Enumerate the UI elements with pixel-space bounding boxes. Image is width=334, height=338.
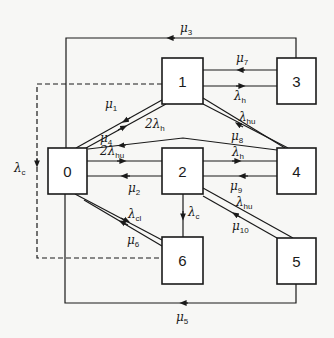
- svg-text:5: 5: [292, 253, 300, 270]
- edge-3-to-1: μ7: [203, 51, 277, 70]
- svg-text:μ6: μ6: [127, 233, 140, 249]
- svg-text:λcl: λcl: [127, 207, 142, 223]
- svg-text:μ2: μ2: [128, 181, 141, 197]
- svg-text:λc: λc: [13, 161, 26, 177]
- svg-text:μ7: μ7: [236, 51, 249, 67]
- edge-2-to-4: λh: [203, 145, 277, 161]
- state-node-3: 3: [277, 58, 316, 104]
- edge-6-to-0: μ6: [84, 200, 162, 249]
- svg-text:λh: λh: [233, 89, 246, 105]
- svg-text:2λh: 2λh: [144, 117, 165, 133]
- state-node-2: 2: [162, 148, 203, 194]
- edge-4-to-0: μ4: [88, 131, 277, 150]
- svg-text:6: 6: [178, 252, 186, 269]
- svg-text:μ8: μ8: [231, 129, 244, 145]
- edge-1-to-3: λh: [203, 86, 277, 105]
- edge-2-to-0: μ2: [87, 176, 162, 197]
- edge-0-to-6: λcl: [75, 194, 162, 240]
- svg-text:3: 3: [292, 73, 300, 90]
- svg-text:4: 4: [292, 163, 300, 180]
- state-node-1: 1: [162, 58, 203, 104]
- svg-text:λc: λc: [187, 205, 200, 221]
- svg-text:λh: λh: [231, 145, 244, 161]
- svg-text:0: 0: [63, 163, 71, 180]
- edge-2-to-6: λc: [183, 194, 200, 237]
- svg-text:μ5: μ5: [176, 310, 189, 326]
- state-node-6: 6: [162, 237, 203, 284]
- svg-text:μ1: μ1: [105, 97, 118, 113]
- svg-text:μ9: μ9: [230, 179, 243, 195]
- edge-4-to-2: μ9: [203, 176, 277, 195]
- svg-text:μ3: μ3: [180, 21, 193, 37]
- svg-text:1: 1: [178, 73, 186, 90]
- state-node-0: 0: [48, 148, 87, 194]
- edge-0-to-2: 2λhu: [87, 144, 162, 161]
- state-node-5: 5: [277, 238, 316, 284]
- svg-text:2λhu: 2λhu: [99, 144, 124, 160]
- svg-text:λhu: λhu: [235, 195, 253, 211]
- state-node-4: 4: [277, 148, 316, 194]
- svg-text:2: 2: [178, 163, 186, 180]
- state-diagram: μ3 μ5 λc μ7 λh μ1 2λh μ4: [0, 0, 334, 338]
